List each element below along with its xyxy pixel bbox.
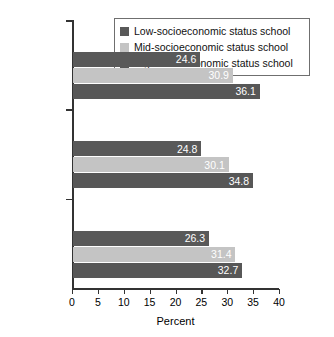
x-tick-label-15: 15: [144, 296, 156, 308]
x-tick-20: [176, 289, 177, 294]
x-tick-40: [279, 289, 280, 294]
bar: 32.7: [73, 263, 242, 278]
bar-chart: Low-socioeconomic status school Mid-soci…: [0, 0, 334, 337]
x-tick-30: [227, 289, 228, 294]
x-tick-15: [150, 289, 151, 294]
y-tick-1: [66, 109, 72, 111]
bar: 24.8: [73, 141, 201, 156]
x-tick-10: [124, 289, 125, 294]
x-tick-25: [201, 289, 202, 294]
y-tick-0: [66, 20, 72, 22]
bar-value-label: 24.6: [176, 53, 200, 65]
bar-value-label: 32.7: [218, 264, 242, 276]
x-tick-5: [98, 289, 99, 294]
bar-value-label: 31.4: [211, 248, 235, 260]
bar: 24.6: [73, 52, 200, 67]
plot-area: 0510152025303540 8th grade10th grade12th…: [72, 20, 279, 288]
x-tick-label-20: 20: [170, 296, 182, 308]
x-tick-label-35: 35: [247, 296, 259, 308]
x-tick-label-30: 30: [221, 296, 233, 308]
x-tick-0: [72, 289, 73, 294]
bar: 30.9: [73, 68, 233, 83]
bar-value-label: 30.9: [208, 69, 232, 81]
bar-value-label: 36.1: [235, 85, 259, 97]
x-tick-35: [253, 289, 254, 294]
x-tick-label-40: 40: [273, 296, 285, 308]
bar: 30.1: [73, 157, 229, 172]
x-tick-label-10: 10: [118, 296, 130, 308]
bar-value-label: 24.8: [177, 143, 201, 155]
bar-value-label: 34.8: [229, 175, 253, 187]
bar: 31.4: [73, 247, 235, 262]
bar: 36.1: [73, 84, 260, 99]
bar-value-label: 26.3: [185, 232, 209, 244]
bar-value-label: 30.1: [204, 159, 228, 171]
x-tick-label-0: 0: [69, 296, 75, 308]
x-tick-label-5: 5: [95, 296, 101, 308]
x-axis-title: Percent: [72, 315, 279, 327]
y-tick-2: [66, 199, 72, 201]
x-tick-label-25: 25: [196, 296, 208, 308]
bar: 26.3: [73, 231, 209, 246]
bar: 34.8: [73, 173, 253, 188]
